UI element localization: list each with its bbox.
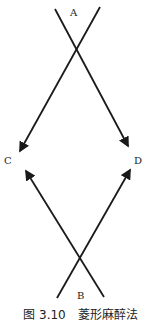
label-a: A [70,8,77,18]
arrow-a-to-d [55,9,128,146]
arrow-b-to-c [26,171,104,297]
figure-caption: 图 3.10 菱形麻醉法 [0,309,161,321]
label-b: B [77,291,84,301]
arrow-a-to-c [20,7,100,151]
label-d: D [134,156,142,166]
label-c: C [4,156,12,166]
